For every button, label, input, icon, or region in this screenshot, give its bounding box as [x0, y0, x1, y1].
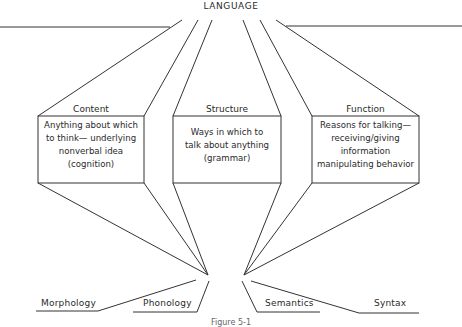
- semantics-label: Semantics: [265, 298, 314, 308]
- content-line: nonverbal idea: [38, 145, 144, 158]
- content-heading: Content: [38, 104, 144, 114]
- structure-description: Ways in which to talk about anything (gr…: [173, 126, 281, 165]
- function-line: manipulating behavior: [312, 158, 419, 171]
- morphology-label: Morphology: [41, 298, 96, 308]
- content-description: Anything about which to think— underlyin…: [38, 119, 144, 171]
- function-line: receiving/giving: [312, 132, 419, 145]
- structure-line: talk about anything: [173, 139, 281, 152]
- structure-heading: Structure: [173, 104, 281, 114]
- function-line: Reasons for talking—: [312, 119, 419, 132]
- content-line: (cognition): [38, 158, 144, 171]
- function-description: Reasons for talking— receiving/giving in…: [312, 119, 419, 171]
- function-line: information: [312, 145, 419, 158]
- structure-line: (grammar): [173, 152, 281, 165]
- function-heading: Function: [312, 104, 419, 114]
- content-line: Anything about which: [38, 119, 144, 132]
- figure-caption: Figure 5-1: [0, 318, 462, 327]
- syntax-label: Syntax: [374, 298, 406, 308]
- root-language-label: LANGUAGE: [0, 1, 462, 11]
- structure-line: Ways in which to: [173, 126, 281, 139]
- phonology-label: Phonology: [143, 298, 192, 308]
- content-line: to think— underlying: [38, 132, 144, 145]
